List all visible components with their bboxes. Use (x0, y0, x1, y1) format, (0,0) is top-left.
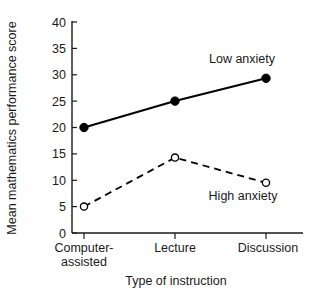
data-point-low-anxiety (80, 123, 88, 131)
chart-figure: Mean mathematics performance score 0 5 1… (0, 0, 311, 292)
y-tick-labels: 0 5 10 15 20 25 30 35 40 (52, 16, 66, 241)
series-label-high-anxiety: High anxiety (209, 189, 279, 203)
line-chart: Mean mathematics performance score 0 5 1… (0, 0, 311, 292)
data-point-high-anxiety (262, 179, 269, 186)
data-point-low-anxiety (171, 97, 179, 105)
y-axis-title: Mean mathematics performance score (5, 21, 19, 234)
data-point-high-anxiety (80, 203, 87, 210)
data-point-high-anxiety (171, 154, 178, 161)
y-tick-label: 25 (52, 95, 66, 109)
x-tick-label-discussion: Discussion (238, 241, 298, 255)
y-tick-label: 35 (52, 42, 66, 56)
y-tick-label: 30 (52, 68, 66, 82)
series-label-low-anxiety: Low anxiety (209, 52, 276, 66)
y-tick-marks (72, 22, 77, 233)
series-markers-low-anxiety (80, 74, 270, 132)
y-tick-label: 40 (52, 16, 66, 30)
y-tick-label: 15 (52, 147, 66, 161)
y-tick-label: 0 (59, 227, 66, 241)
y-tick-label: 20 (52, 121, 66, 135)
x-tick-marks (84, 233, 266, 239)
y-tick-label: 5 (59, 200, 66, 214)
x-tick-label-computer-assisted-line2: assisted (61, 255, 107, 269)
x-tick-label-lecture: Lecture (154, 241, 196, 255)
y-tick-label: 10 (52, 174, 66, 188)
x-axis-title: Type of instruction (125, 274, 226, 288)
data-point-low-anxiety (262, 74, 270, 82)
x-tick-labels: Computer- assisted Lecture Discussion (54, 241, 298, 269)
x-tick-label-computer-assisted-line1: Computer- (54, 241, 113, 255)
